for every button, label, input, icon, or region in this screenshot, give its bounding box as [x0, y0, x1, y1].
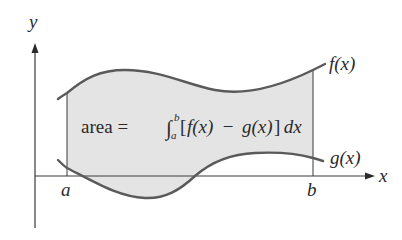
formula-dx: dx — [279, 116, 302, 137]
y-axis-label: y — [27, 11, 38, 32]
formula-lower-limit: a — [171, 129, 177, 141]
x-axis-label: x — [378, 165, 388, 186]
bound-b-label: b — [307, 179, 317, 200]
formula-f: f(x) — [187, 116, 213, 138]
formula-prefix: area = — [81, 116, 133, 137]
x-axis-arrow-icon — [365, 173, 375, 180]
formula-bracket-open: [ — [180, 116, 186, 137]
formula-minus: − — [218, 116, 238, 137]
bound-a-label: a — [61, 179, 71, 200]
y-axis-arrow-icon — [32, 43, 39, 53]
curve-f-label: f(x) — [329, 53, 355, 75]
area-between-curves-diagram: y x a b f(x) g(x) area = ∫ b a [ f(x) − … — [0, 0, 402, 240]
formula-g: g(x) — [242, 116, 273, 138]
curve-g-label: g(x) — [330, 147, 361, 169]
area-formula: area = ∫ b a [ f(x) − g(x) ] dx — [81, 111, 302, 141]
